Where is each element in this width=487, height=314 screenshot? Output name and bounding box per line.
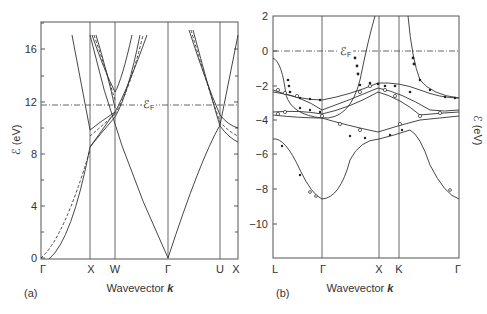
panel-b-letter: (b) xyxy=(276,287,289,299)
panel-a-letter: (a) xyxy=(24,287,37,299)
y-tick-label: −4 xyxy=(255,114,268,126)
panel-a-bands xyxy=(41,30,238,259)
panel-b-x-tick-labels: L Γ X K Γ xyxy=(272,263,461,275)
panel-a-y-tick-labels: 0 4 8 12 16 xyxy=(25,43,37,264)
band-structure-figure: 0 4 8 12 16 Γ X W Γ U X ℰ (eV) Wavevecto… xyxy=(0,0,487,314)
y-tick-label: 4 xyxy=(31,200,37,212)
panel-b-experimental-points xyxy=(281,57,456,177)
x-tick-label: X xyxy=(87,263,95,275)
x-tick-label: K xyxy=(395,263,403,275)
y-tick-label: −6 xyxy=(255,148,268,160)
y-tick-label: −8 xyxy=(255,183,268,195)
y-tick-label: 2 xyxy=(262,10,268,22)
y-tick-label: 8 xyxy=(31,148,37,160)
panel-b: 2 0 −2 −4 −6 −8 −10 L Γ X K Γ ℰ (eV) Wav… xyxy=(249,10,484,299)
y-tick-label: 0 xyxy=(31,252,37,264)
y-tick-label: −10 xyxy=(249,218,268,230)
panel-b-experimental-open-points xyxy=(276,84,451,197)
x-tick-label: X xyxy=(375,263,383,275)
x-tick-label: X xyxy=(232,263,240,275)
panel-b-y-tick-labels: 2 0 −2 −4 −6 −8 −10 xyxy=(249,10,268,230)
panel-a-frame xyxy=(41,22,238,259)
panel-b-x-axis-label: Wavevector k xyxy=(327,282,395,294)
panel-b-y-ticks xyxy=(273,51,277,224)
x-tick-label: Γ xyxy=(455,263,461,275)
y-tick-label: −2 xyxy=(255,80,268,92)
panel-a-x-tick-labels: Γ X W Γ U X xyxy=(40,263,240,275)
y-tick-label: 0 xyxy=(262,45,268,57)
x-tick-label: U xyxy=(216,263,224,275)
y-tick-label: 12 xyxy=(25,96,37,108)
panel-a-y-axis-label: ℰ (eV) xyxy=(10,125,22,156)
y-tick-label: 16 xyxy=(25,43,37,55)
x-tick-label: Γ xyxy=(165,263,171,275)
x-tick-label: W xyxy=(110,263,121,275)
x-tick-label: L xyxy=(272,263,278,275)
x-tick-label: Γ xyxy=(40,263,46,275)
x-tick-label: Γ xyxy=(320,263,326,275)
panel-b-y-axis-label: ℰ (eV) xyxy=(472,115,484,146)
panel-a: 0 4 8 12 16 Γ X W Γ U X ℰ (eV) Wavevecto… xyxy=(10,22,240,299)
panel-a-x-axis-label: Wavevector k xyxy=(107,282,175,294)
